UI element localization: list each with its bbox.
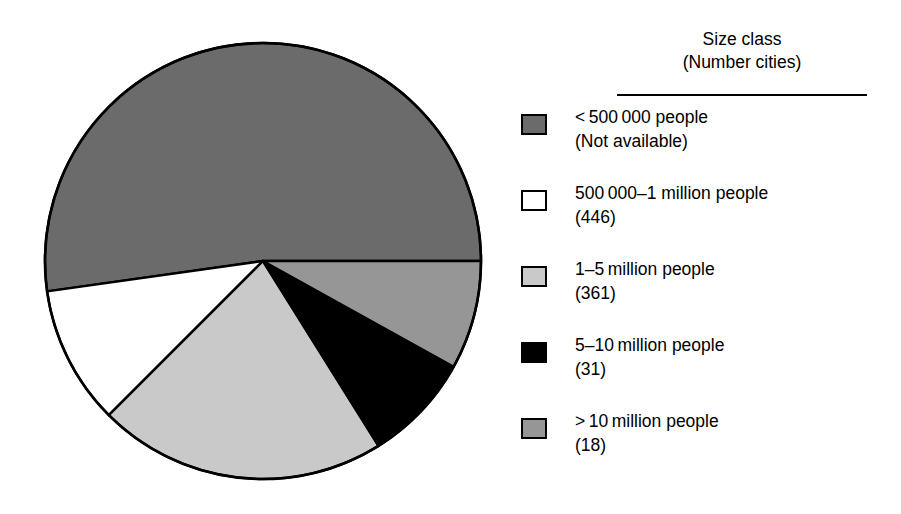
legend-item-label: 5–10 million people [575, 334, 885, 358]
legend-item-text: > 10 million people(18) [575, 410, 885, 457]
pie-chart-figure: Size class (Number cities) < 500 000 peo… [0, 0, 901, 514]
pie-chart [38, 28, 494, 498]
legend-item[interactable]: 500 000–1 million people(446) [516, 184, 892, 260]
legend-item-text: 1–5 million people(361) [575, 258, 885, 305]
legend-item-count: (31) [575, 358, 885, 382]
swatch-500000-1-million [521, 190, 547, 211]
legend-item-text: 500 000–1 million people(446) [575, 182, 885, 229]
legend-item-text: < 500 000 people(Not available) [575, 106, 885, 153]
legend-divider [617, 94, 867, 96]
legend-item[interactable]: > 10 million people(18) [516, 412, 892, 488]
swatch-5-10-million [521, 342, 547, 363]
legend-item[interactable]: < 500 000 people(Not available) [516, 108, 892, 184]
legend-header: Size class (Number cities) [614, 28, 870, 74]
swatch-under-500000 [521, 114, 547, 135]
pie-chart-svg [38, 28, 494, 498]
pie-slices [45, 43, 481, 479]
pie-slice-1[interactable] [45, 43, 481, 291]
legend-item-label: < 500 000 people [575, 106, 885, 130]
legend: Size class (Number cities) < 500 000 peo… [516, 28, 892, 488]
legend-item-count: (446) [575, 206, 885, 230]
swatch-over-10-million [521, 418, 547, 439]
legend-item[interactable]: 5–10 million people(31) [516, 336, 892, 412]
legend-title-line-1: Size class [614, 28, 870, 51]
legend-item-count: (18) [575, 434, 885, 458]
legend-item-label: 500 000–1 million people [575, 182, 885, 206]
legend-item[interactable]: 1–5 million people(361) [516, 260, 892, 336]
legend-item-label: > 10 million people [575, 410, 885, 434]
legend-item-label: 1–5 million people [575, 258, 885, 282]
legend-item-text: 5–10 million people(31) [575, 334, 885, 381]
legend-title-line-2: (Number cities) [614, 51, 870, 74]
swatch-1-5-million [521, 266, 547, 287]
legend-items: < 500 000 people(Not available)500 000–1… [516, 108, 892, 488]
legend-item-count: (361) [575, 282, 885, 306]
legend-item-count: (Not available) [575, 130, 885, 154]
